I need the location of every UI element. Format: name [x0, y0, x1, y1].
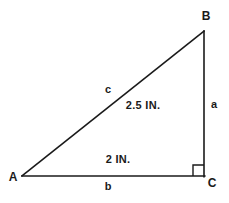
hypotenuse-measure-label: 2.5 IN.: [126, 100, 161, 111]
side-label-a: a: [211, 99, 217, 110]
vertex-label-c: C: [208, 177, 217, 189]
vertex-label-a: A: [9, 171, 18, 183]
vertex-label-b: B: [202, 10, 211, 22]
side-label-b: b: [105, 181, 112, 192]
base-measure-label: 2 IN.: [106, 154, 131, 165]
right-triangle-diagram: B A C c b a 2.5 IN. 2 IN.: [0, 0, 229, 203]
right-angle-icon: [193, 165, 204, 176]
triangle-graphic: [0, 0, 229, 203]
side-label-c: c: [105, 84, 111, 95]
